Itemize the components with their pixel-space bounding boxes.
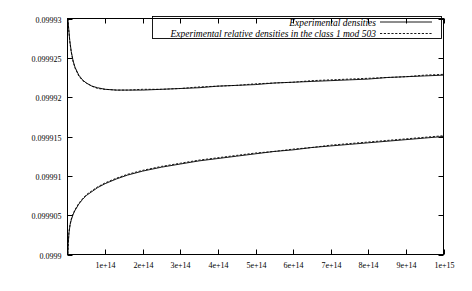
x-tick-label: 3e+14 xyxy=(170,261,190,270)
legend-label-0: Experimental densities xyxy=(288,18,376,28)
y-tick-label: 0.099905 xyxy=(32,212,62,221)
y-tick-label: 0.0999 xyxy=(40,252,62,261)
y-tick-label: 0.09992 xyxy=(36,94,62,103)
y-tick-label: 0.099915 xyxy=(32,134,62,143)
x-tick-label: 5e+14 xyxy=(246,261,266,270)
line-chart: 0.099930.0999250.099920.0999150.099910.0… xyxy=(0,0,472,291)
chart-figure: 0.099930.0999250.099920.0999150.099910.0… xyxy=(0,0,472,291)
y-tick-label: 0.099925 xyxy=(32,55,62,64)
legend-label-1: Experimental relative densities in the c… xyxy=(170,29,377,39)
x-tick-label: 6e+14 xyxy=(283,261,303,270)
x-tick-label: 8e+14 xyxy=(358,261,378,270)
x-tick-label: 1e+15 xyxy=(434,261,454,270)
x-tick-label: 7e+14 xyxy=(321,261,341,270)
y-tick-label: 0.09991 xyxy=(36,173,62,182)
x-tick-label: 1e+14 xyxy=(95,261,115,270)
x-tick-label: 4e+14 xyxy=(208,261,228,270)
plot-background xyxy=(0,0,472,291)
x-tick-label: 9e+14 xyxy=(396,261,416,270)
y-tick-label: 0.09993 xyxy=(36,16,62,25)
x-tick-label: 2e+14 xyxy=(133,261,153,270)
